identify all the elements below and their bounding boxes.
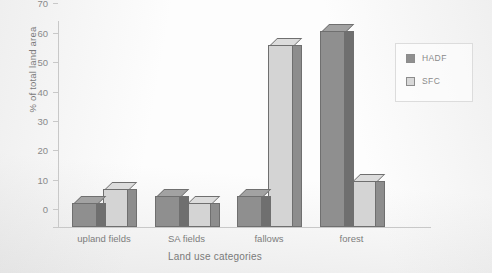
bar-side-face: [345, 31, 354, 227]
legend-item-hadf: HADF: [406, 53, 472, 63]
bar-face-face: [103, 189, 128, 227]
y-tick-mark: [53, 33, 58, 34]
y-tick-10: 10: [37, 171, 58, 189]
y-tick-label: 60: [37, 28, 53, 39]
y-axis-title: % of total land area: [27, 0, 38, 150]
bar-sfc-upland-fields: [103, 189, 128, 227]
y-tick-mark: [53, 150, 58, 151]
bar-sfc-forest: [351, 181, 376, 227]
y-tick-label: 50: [37, 57, 53, 68]
bar-side-face: [97, 203, 106, 227]
legend-label-sfc: SFC: [422, 76, 440, 86]
bar-side-face: [128, 189, 137, 227]
y-tick-mark: [53, 209, 58, 210]
y-tick-mark: [53, 92, 58, 93]
bar-sfc-SA-fields: [186, 203, 211, 227]
y-tick-40: 40: [37, 82, 58, 100]
y-tick-label: 0: [43, 204, 53, 215]
bar-hadf-forest: [320, 31, 345, 227]
y-axis-line: [58, 21, 59, 227]
y-tick-label: 70: [37, 0, 53, 9]
y-tick-label: 20: [37, 145, 53, 156]
y-tick-60: 60: [37, 23, 58, 41]
y-tick-mark: [53, 3, 58, 4]
bar-hadf-fallows: [237, 196, 262, 227]
x-tick-label-forest: forest: [340, 233, 364, 244]
legend-label-hadf: HADF: [422, 53, 447, 63]
bar-hadf-upland-fields: [72, 203, 97, 227]
bar-face-face: [237, 196, 262, 227]
y-tick-0: 0: [43, 200, 58, 218]
legend-swatch-icon-hadf: [406, 54, 415, 63]
y-tick-mark: [53, 62, 58, 63]
y-tick-30: 30: [37, 112, 58, 130]
bar-chart-figure: % of total land area Land use categories…: [0, 0, 492, 273]
plot-area: 010203040506070 upland fieldsSA fieldsfa…: [58, 21, 388, 227]
bar-side-face: [180, 196, 189, 227]
y-tick-label: 30: [37, 116, 53, 127]
bar-face-face: [268, 45, 293, 227]
legend-item-sfc: SFC: [406, 76, 472, 86]
bar-side-face: [211, 203, 220, 227]
bar-side-face: [293, 45, 302, 227]
x-axis-line: [53, 227, 431, 228]
x-axis-title: Land use categories: [0, 251, 430, 262]
y-tick-mark: [53, 121, 58, 122]
bar-side-face: [376, 181, 385, 227]
y-tick-70: 70: [37, 0, 58, 12]
bar-face-face: [155, 196, 180, 227]
bar-side-face: [262, 196, 271, 227]
bar-hadf-SA-fields: [155, 196, 180, 227]
bar-face-face: [351, 181, 376, 227]
y-tick-label: 40: [37, 87, 53, 98]
x-tick-label-upland-fields: upland fields: [77, 233, 130, 244]
y-tick-label: 10: [37, 175, 53, 186]
bar-face-face: [186, 203, 211, 227]
y-tick-50: 50: [37, 53, 58, 71]
y-tick-mark: [53, 180, 58, 181]
bar-face-face: [320, 31, 345, 227]
x-tick-label-fallows: fallows: [254, 233, 283, 244]
y-tick-20: 20: [37, 141, 58, 159]
legend-swatch-icon-sfc: [406, 77, 415, 86]
x-tick-label-SA-fields: SA fields: [168, 233, 205, 244]
bar-face-face: [72, 203, 97, 227]
chart-legend: HADF SFC: [395, 43, 473, 102]
bar-sfc-fallows: [268, 45, 293, 227]
